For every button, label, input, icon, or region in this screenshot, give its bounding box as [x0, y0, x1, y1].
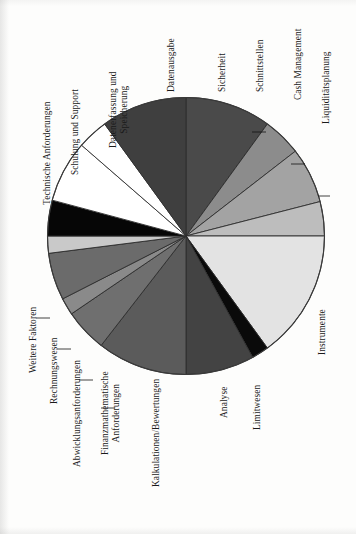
- slice-label-finanzmathematische-anforderungen: Finanzmathematische Anforderungen: [100, 371, 121, 455]
- slice-label-analyse: Analyse: [220, 387, 230, 418]
- slice-label-cash-management: Cash Management: [294, 28, 304, 100]
- slice-label-schulung-und-support: Schulung und Support: [71, 89, 81, 175]
- slice-label-sicherheit: Sicherheit: [218, 53, 228, 92]
- slice-label-schnittstellen: Schnittstellen: [256, 40, 266, 92]
- scanned-page: Datenausgabe Sicherheit Schnittstellen C…: [0, 0, 356, 534]
- slice-label-technische-anforderungen: Technische Anforderungen: [43, 101, 53, 205]
- slice-label-instrumente: Instrumente: [318, 309, 328, 355]
- slice-label-datenerfassung-und-speicherung: Datenerfassung und Speicherung: [108, 71, 129, 148]
- pie-chart-figure: Datenausgabe Sicherheit Schnittstellen C…: [0, 0, 356, 534]
- slice-label-datenausgabe: Datenausgabe: [167, 38, 177, 92]
- pie-slices: [47, 98, 324, 375]
- slice-label-rechnungswesen: Rechnungswesen: [50, 338, 60, 405]
- slice-label-abwicklungsanforderungen: Abwicklungsanforderungen: [73, 360, 83, 467]
- label-line-1: Finanzmathematische: [100, 371, 111, 455]
- label-line-2: Speicherung: [119, 71, 130, 148]
- label-line-1: Datenerfassung und: [108, 71, 119, 148]
- slice-label-kalkulationen: Kalkulationen/Bewertungen: [152, 379, 162, 487]
- slice-label-limitwesen: Limitwesen: [253, 385, 263, 430]
- label-line-2: Anforderungen: [111, 371, 122, 455]
- slice-label-weitere-faktoren: Weitere Faktoren: [29, 307, 39, 373]
- slice-label-liquiditaetsplanung: Liquiditätsplanung: [322, 51, 332, 124]
